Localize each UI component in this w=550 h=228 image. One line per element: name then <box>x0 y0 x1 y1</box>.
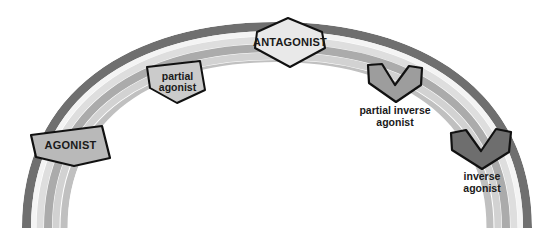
marker-antagonist[interactable]: ANTAGONIST <box>250 15 330 70</box>
marker-agonist[interactable]: AGONIST <box>28 123 113 168</box>
partial-inverse-agonist-label-line2: agonist <box>376 116 413 128</box>
partial-agonist-pentagon-icon <box>143 57 208 106</box>
partial-inverse-agonist-label-line1: partial inverse <box>359 104 430 116</box>
marker-inverse-agonist[interactable] <box>447 126 515 172</box>
marker-partial-agonist[interactable]: partial agonist <box>143 57 208 106</box>
inverse-agonist-caption: inverse agonist <box>437 170 527 195</box>
partial-inverse-agonist-chevron-icon <box>364 61 426 105</box>
efficacy-spectrum-diagram: AGONIST partial agonist ANTAGONIST parti… <box>0 0 550 228</box>
antagonist-hexagon-icon <box>250 15 330 70</box>
inverse-agonist-label-line1: inverse <box>464 170 501 182</box>
agonist-pentagon-icon <box>28 123 113 168</box>
partial-inverse-agonist-caption: partial inverse agonist <box>334 104 456 129</box>
inverse-agonist-chevron-icon <box>447 126 515 172</box>
inverse-agonist-label-line2: agonist <box>463 182 500 194</box>
marker-partial-inverse-agonist[interactable] <box>364 61 426 105</box>
